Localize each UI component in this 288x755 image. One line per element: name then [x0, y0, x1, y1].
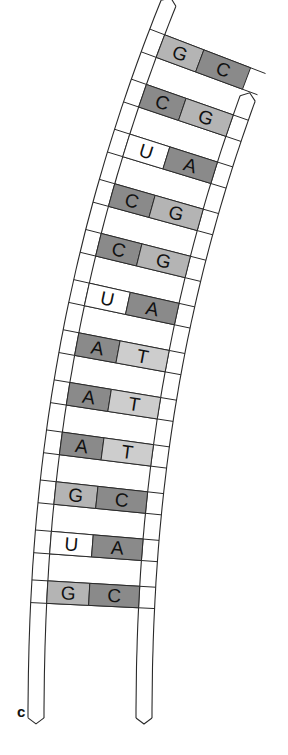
base-pair: UA	[34, 530, 159, 562]
base-pair: UA	[107, 129, 232, 188]
rna-base-letter: G	[60, 582, 76, 604]
right-strand-edge	[152, 101, 255, 718]
base-pair: GC	[31, 580, 156, 609]
base-pair: AT	[59, 330, 185, 375]
right-strand-top-cut	[240, 93, 255, 101]
dna-base-letter: C	[107, 585, 122, 607]
rna-base-letter: G	[67, 484, 84, 506]
right-strand-bottom-cut	[136, 718, 152, 724]
dna-base-letter: C	[114, 489, 130, 511]
base-pair: GC	[38, 480, 164, 515]
left-strand-top-cut	[161, 0, 176, 6]
base-pair: CG	[124, 79, 249, 141]
base-pair: GC	[141, 29, 265, 95]
left-strand-bottom-cut	[28, 718, 44, 724]
base-pair: CG	[93, 179, 219, 234]
helix-svg: GCCGUACGCGUAATATATGCUAGC	[0, 0, 288, 755]
dna-base-letter: A	[110, 537, 125, 559]
base-pair: AT	[44, 430, 170, 468]
rna-base-letter: U	[64, 533, 79, 555]
panel-label: c	[17, 703, 25, 720]
base-pair: AT	[50, 380, 176, 422]
rna-dna-hybrid-diagram: GCCGUACGCGUAATATATGCUAGC c	[0, 0, 288, 755]
base-pair: CG	[80, 229, 206, 281]
